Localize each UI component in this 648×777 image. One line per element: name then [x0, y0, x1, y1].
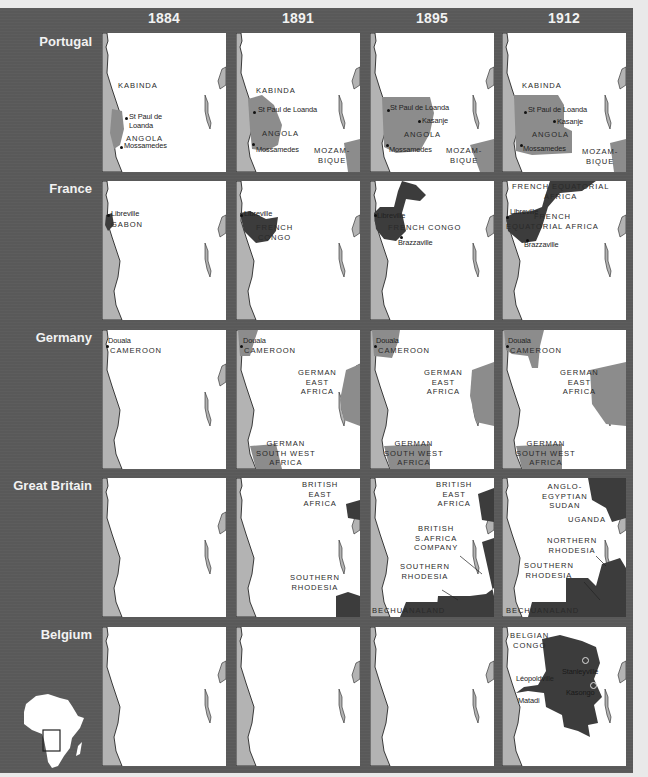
city-label: Matadi: [518, 696, 540, 705]
city-label: St Paul de Loanda: [390, 103, 449, 112]
city-marker: [553, 120, 556, 123]
territory-label: SOUTHERN RHODESIA: [400, 562, 450, 581]
panel-great-britain-1912: ANGLO- EGYPTIAN SUDAN UGANDA NORTHERN RH…: [502, 478, 626, 617]
city-marker: [506, 345, 509, 348]
territory-label: ANGLO- EGYPTIAN SUDAN: [542, 482, 588, 511]
territory-label: BELGIAN CONGO: [510, 631, 549, 650]
panel-germany-1912: Douala CAMEROON GERMAN EAST AFRICA GERMA…: [502, 330, 626, 469]
city-label: Kasongo: [566, 688, 594, 697]
panel-great-britain-1891: BRITISH EAST AFRICA SOUTHERN RHODESIA: [236, 478, 360, 617]
city-label: St Paul de Loanda: [129, 112, 162, 130]
city-marker: [253, 111, 256, 114]
panel-belgium-1895: [370, 627, 494, 766]
territory-label: CAMEROON: [110, 346, 162, 356]
territory-label: NORTHERN RHODESIA: [547, 536, 597, 555]
panel-france-1912: FRENCH EQUATORIAL AFRICA Libreville FREN…: [502, 181, 626, 320]
row-label-portugal: Portugal: [0, 34, 92, 49]
territory-label: GERMAN EAST AFRICA: [424, 368, 463, 397]
city-marker: [240, 214, 243, 217]
territory-label: MOZAM- BIQUE: [582, 147, 618, 166]
panel-great-britain-1895: BRITISH EAST AFRICA BRITISH S.AFRICA COM…: [370, 478, 494, 617]
city-label: Douala: [376, 336, 399, 345]
panel-france-1891: Libreville FRENCH CONGO: [236, 181, 360, 320]
territory-label: GERMAN EAST AFRICA: [560, 368, 599, 397]
city-label: Kasanje: [422, 116, 448, 125]
territory-label: UGANDA: [568, 515, 606, 525]
year-header-1912: 1912: [502, 10, 626, 26]
city-marker: [524, 111, 527, 114]
city-label: Mossamedes: [256, 145, 299, 154]
territory-label: FRENCH EQUATORIAL AFRICA: [512, 182, 609, 201]
territory-label: GERMAN SOUTH WEST AFRICA: [516, 439, 576, 468]
year-header-1884: 1884: [102, 10, 226, 26]
territory-label: MOZAM- BIQUE: [446, 146, 482, 165]
row-label-great-britain: Great Britain: [0, 478, 92, 493]
city-label: Libreville: [111, 209, 139, 218]
city-label: Brazzaville: [398, 238, 433, 247]
city-marker: [252, 143, 255, 146]
city-label: St Paul de Loanda: [528, 105, 587, 114]
city-marker: [418, 120, 421, 123]
city-label: Libreville: [244, 209, 272, 218]
territory-label: BRITISH S.AFRICA COMPANY: [414, 524, 458, 553]
panel-belgium-1884: [102, 627, 226, 766]
panel-germany-1891: Douala CAMEROON GERMAN EAST AFRICA GERMA…: [236, 330, 360, 469]
territory-label: BECHUANALAND: [372, 606, 445, 616]
africa-locator-icon: [18, 690, 90, 770]
city-label: Mossamedes: [389, 145, 432, 154]
panel-germany-1884: Douala CAMEROON: [102, 330, 226, 469]
territory-label: CAMEROON: [378, 346, 430, 356]
city-label: Douala: [108, 336, 131, 345]
panel-france-1884: Libreville GABON: [102, 181, 226, 320]
row-label-belgium: Belgium: [0, 627, 92, 642]
territory-label: KABINDA: [118, 81, 158, 91]
territory-label: SOUTHERN RHODESIA: [290, 573, 340, 592]
city-label: Stanleyville: [562, 667, 598, 676]
city-marker: [240, 345, 243, 348]
row-label-germany: Germany: [0, 330, 92, 345]
city-label: Douala: [508, 336, 531, 345]
city-label: Mossamedes: [124, 141, 167, 150]
city-marker: [106, 345, 109, 348]
panel-portugal-1884: KABINDA St Paul de Loanda ANGOLA Mossame…: [102, 33, 226, 172]
panel-germany-1895: Douala CAMEROON GERMAN EAST AFRICA GERMA…: [370, 330, 494, 469]
territory-label: SOUTHERN RHODESIA: [524, 561, 574, 580]
territory-label: FRENCH CONGO: [388, 223, 461, 233]
territory-label: BRITISH EAST AFRICA: [302, 480, 338, 509]
panel-france-1895: Libreville FRENCH CONGO Brazzaville: [370, 181, 494, 320]
city-label: Mossamedes: [523, 144, 566, 153]
territory-label: BECHUANALAND: [506, 606, 579, 616]
territory-label: BRITISH EAST AFRICA: [436, 480, 472, 509]
city-label: Brazzaville: [524, 240, 559, 249]
territory-label: KABINDA: [522, 81, 562, 91]
panel-portugal-1895: St Paul de Loanda Kasanje ANGOLA Mossame…: [370, 33, 494, 172]
city-marker: [125, 117, 128, 120]
city-marker: [120, 146, 123, 149]
territory-label: ANGOLA: [532, 130, 569, 140]
territory-label: FRENCH EQUATORIAL AFRICA: [506, 212, 599, 231]
territory-label: CAMEROON: [510, 346, 562, 356]
city-label: Kasanje: [557, 117, 583, 126]
year-header-1891: 1891: [236, 10, 360, 26]
territory-label: ANGOLA: [262, 129, 299, 139]
panel-portugal-1891: KABINDA St Paul de Loanda ANGOLA Mossame…: [236, 33, 360, 172]
territory-label: GERMAN SOUTH WEST AFRICA: [256, 439, 316, 468]
territory-label: CAMEROON: [244, 346, 296, 356]
territory-label: GERMAN SOUTH WEST AFRICA: [384, 439, 444, 468]
territory-label: KABINDA: [256, 86, 296, 96]
city-marker: [374, 345, 377, 348]
panel-belgium-1912: BELGIAN CONGO Stanleyville Léopoldville …: [502, 627, 626, 766]
city-label: Léopoldville: [516, 674, 554, 683]
city-label: Douala: [243, 336, 266, 345]
panel-portugal-1912: KABINDA St Paul de Loanda Kasanje ANGOLA…: [502, 33, 626, 172]
panel-great-britain-1884: [102, 478, 226, 617]
year-header-1895: 1895: [370, 10, 494, 26]
city-label: Libreville: [377, 211, 405, 220]
territory-label: ANGOLA: [404, 130, 441, 140]
panel-belgium-1891: [236, 627, 360, 766]
territory-label: FRENCH CONGO: [256, 223, 293, 242]
city-marker: [107, 214, 110, 217]
city-label: St Paul de Loanda: [258, 105, 317, 114]
territory-label: MOZAM- BIQUE: [314, 146, 350, 165]
city-marker: [582, 657, 589, 664]
